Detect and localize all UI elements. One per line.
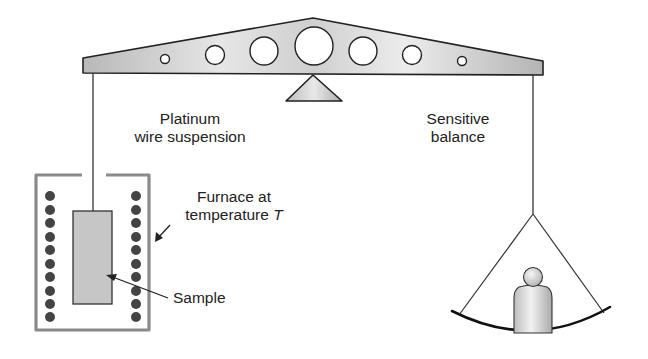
beam-hole [250,37,278,65]
sensitive-balance-label: Sensitive balance [408,110,508,146]
diagram-canvas [0,0,648,359]
counterweight [514,268,552,334]
beam-hole [206,46,225,65]
fulcrum [286,75,342,101]
platinum-wire-label-line2: wire suspension [120,128,260,146]
beam-hole [295,27,333,65]
sensitive-balance-label-line2: balance [408,128,508,146]
tga-diagram: Platinum wire suspension Sensitive balan… [0,0,648,359]
sample [73,211,112,304]
beam-hole [349,37,377,65]
heating-elements-right [131,191,141,322]
platinum-wire-label-line1: Platinum [120,110,260,128]
platinum-wire-label: Platinum wire suspension [120,110,260,146]
beam-hole [403,46,422,65]
furnace-label: Furnace at temperature T [172,188,296,224]
temperature-variable: T [273,206,282,223]
heating-elements-left [45,191,55,322]
beam-hole [458,57,467,66]
sensitive-balance-label-line1: Sensitive [408,110,508,128]
furnace-arrow [155,225,170,242]
furnace-label-line1: Furnace at [172,188,296,206]
furnace-label-line2: temperature T [172,206,296,224]
balance-beam [83,18,543,75]
beam-hole [161,55,170,64]
sample-label: Sample [173,289,226,307]
